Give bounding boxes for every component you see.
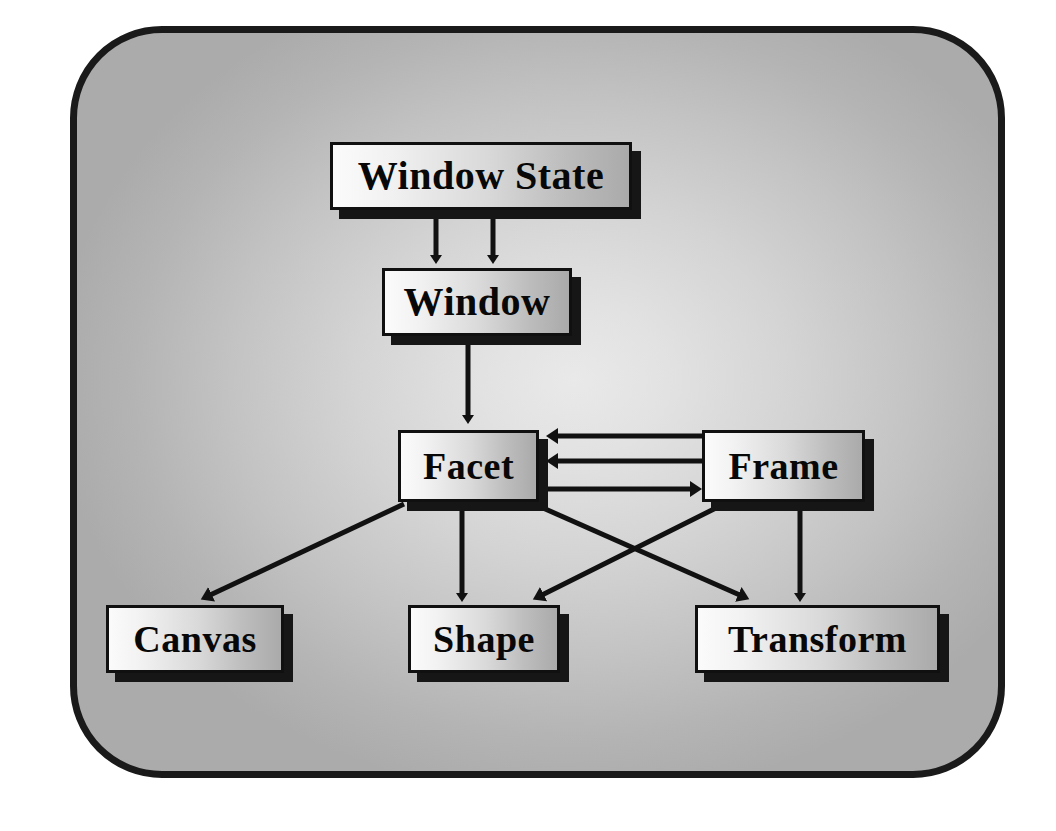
- node-shape[interactable]: Shape: [408, 605, 560, 673]
- node-shape-label: Shape: [433, 620, 535, 658]
- node-transform-label: Transform: [728, 620, 907, 658]
- node-facet[interactable]: Facet: [398, 430, 539, 502]
- node-window-state-label: Window State: [358, 156, 604, 196]
- node-window[interactable]: Window: [382, 268, 572, 336]
- node-facet-label: Facet: [423, 447, 514, 485]
- node-frame[interactable]: Frame: [702, 430, 865, 502]
- node-window-label: Window: [404, 282, 551, 322]
- node-window-state[interactable]: Window State: [330, 142, 632, 210]
- node-canvas[interactable]: Canvas: [106, 605, 284, 673]
- diagram-page: Window State Window Facet Frame Canvas S…: [0, 0, 1056, 831]
- node-canvas-label: Canvas: [133, 620, 256, 658]
- node-transform[interactable]: Transform: [695, 605, 940, 673]
- node-frame-label: Frame: [728, 447, 838, 485]
